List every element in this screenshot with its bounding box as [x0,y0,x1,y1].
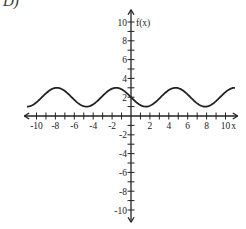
y-tick-label: -2 [119,130,127,140]
axes [24,10,238,222]
y-tick-label: 10 [118,18,128,28]
y-tick-label: 6 [122,55,127,65]
function-graph: -10-8-6-4-2246810-10-8-6-4-2246810 f(x) … [0,0,246,229]
y-tick-label: 8 [122,36,127,46]
y-tick-label: 2 [122,93,127,103]
x-tick-label: -8 [51,121,59,131]
x-tick-label: 10 [221,121,231,131]
y-axis-label: f(x) [136,18,150,29]
x-tick-label: 8 [204,121,209,131]
x-tick-label: -4 [89,121,97,131]
x-tick-label: 2 [148,121,153,131]
x-axis-label: x [231,121,236,131]
x-tick-label: -6 [70,121,78,131]
y-tick-label: -6 [119,168,127,178]
y-tick-label: -8 [119,187,127,197]
x-tick-label: -10 [30,121,43,131]
x-tick-label: 4 [166,121,171,131]
y-tick-label: 4 [122,74,127,84]
x-tick-label: 6 [185,121,190,131]
y-tick-label: -4 [119,149,127,159]
y-tick-label: -10 [114,206,127,216]
x-tick-label: -2 [108,121,116,131]
